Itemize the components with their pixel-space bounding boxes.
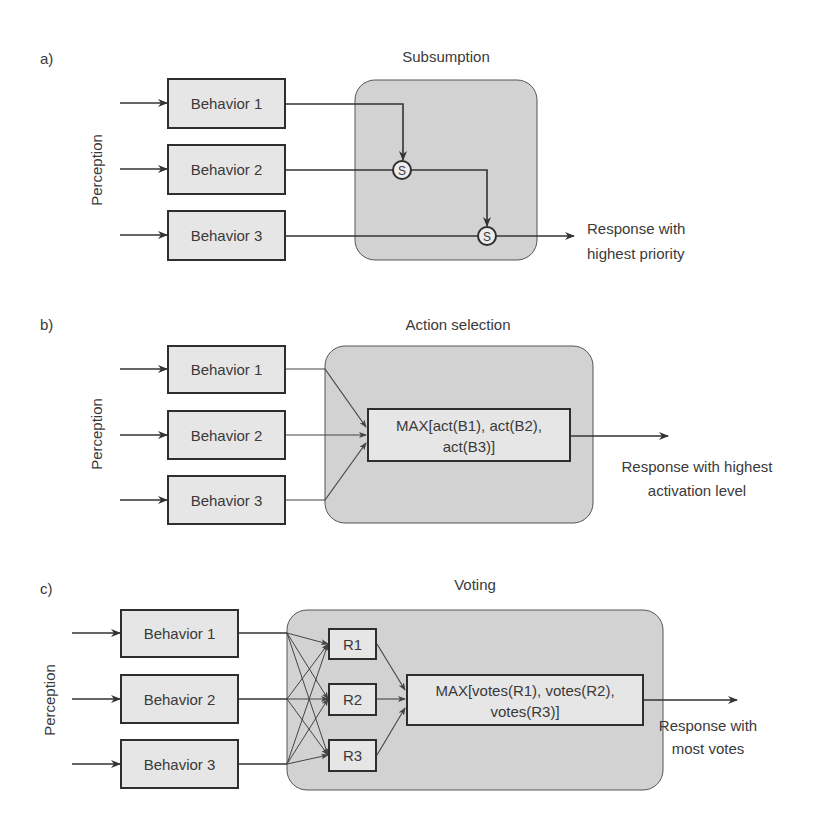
behavior-box-1: Behavior 1 — [121, 610, 238, 657]
svg-text:Behavior 2: Behavior 2 — [144, 691, 216, 708]
behavior-box-3: Behavior 3 — [168, 476, 285, 524]
panel-a-subsumption: a) Subsumption Perception Behavior 1 Beh… — [40, 48, 685, 262]
svg-text:R2: R2 — [343, 691, 362, 708]
svg-text:MAX[act(B1), act(B2),: MAX[act(B1), act(B2), — [396, 417, 542, 434]
panel-b-label: b) — [40, 316, 53, 333]
panel-a-title: Subsumption — [402, 48, 490, 65]
svg-text:Behavior 3: Behavior 3 — [191, 492, 263, 509]
svg-text:R1: R1 — [343, 636, 362, 653]
svg-text:votes(R3)]: votes(R3)] — [490, 703, 559, 720]
behavior-box-2: Behavior 2 — [168, 411, 285, 459]
response-box-r1: R1 — [329, 629, 376, 659]
panel-c-label: c) — [40, 580, 53, 597]
perception-label: Perception — [88, 134, 105, 206]
panel-b-title: Action selection — [405, 316, 510, 333]
panel-c-voting: c) Voting Perception Behavior 1 Behavior… — [40, 576, 757, 790]
panel-b-action-selection: b) Action selection Perception Behavior … — [40, 316, 773, 524]
output-label-line1: Response with — [587, 220, 685, 237]
behavior-box-2: Behavior 2 — [121, 675, 238, 723]
panel-a-label: a) — [40, 50, 53, 67]
svg-text:MAX[votes(R1), votes(R2),: MAX[votes(R1), votes(R2), — [435, 682, 614, 699]
svg-text:Behavior 1: Behavior 1 — [191, 361, 263, 378]
suppression-node-2: S — [478, 227, 496, 245]
svg-text:S: S — [483, 230, 491, 244]
panel-c-title: Voting — [454, 576, 496, 593]
svg-text:act(B3)]: act(B3)] — [443, 438, 496, 455]
output-label-line2: most votes — [672, 740, 745, 757]
suppression-node-1: S — [393, 161, 411, 179]
svg-text:R3: R3 — [343, 747, 362, 764]
svg-text:Behavior 3: Behavior 3 — [144, 756, 216, 773]
behavior-box-3: Behavior 3 — [121, 740, 238, 788]
perception-label: Perception — [88, 398, 105, 470]
svg-text:Behavior 2: Behavior 2 — [191, 161, 263, 178]
behavior-box-1: Behavior 1 — [168, 346, 285, 393]
svg-text:Behavior 1: Behavior 1 — [144, 625, 216, 642]
response-box-r2: R2 — [329, 684, 376, 715]
output-label-line2: highest priority — [587, 245, 685, 262]
diagram-canvas: a) Subsumption Perception Behavior 1 Beh… — [0, 0, 833, 826]
svg-text:Behavior 3: Behavior 3 — [191, 227, 263, 244]
perception-label: Perception — [41, 664, 58, 736]
max-activation-box: MAX[act(B1), act(B2), act(B3)] — [368, 409, 570, 461]
svg-text:Behavior 2: Behavior 2 — [191, 427, 263, 444]
behavior-box-2: Behavior 2 — [168, 145, 285, 194]
behavior-box-1: Behavior 1 — [168, 79, 285, 128]
behavior-box-3: Behavior 3 — [168, 211, 285, 260]
output-label-line2: activation level — [648, 482, 746, 499]
svg-text:Behavior 1: Behavior 1 — [191, 95, 263, 112]
response-box-r3: R3 — [329, 740, 376, 771]
svg-text:S: S — [398, 164, 406, 178]
max-votes-box: MAX[votes(R1), votes(R2), votes(R3)] — [407, 675, 643, 725]
output-label-line1: Response with highest — [622, 458, 774, 475]
output-label-line1: Response with — [659, 717, 757, 734]
